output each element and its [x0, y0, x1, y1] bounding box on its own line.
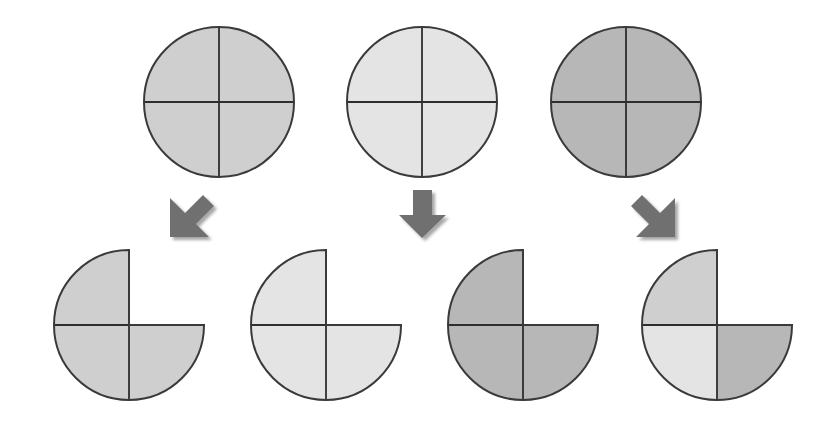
quadrant-bottom-right	[129, 325, 204, 400]
quadrant-bottom-left	[642, 325, 717, 400]
quadrant-bottom-left	[251, 325, 326, 400]
arrow-down-right-icon	[631, 195, 675, 237]
result-dark-three-quarter-circle	[448, 250, 598, 400]
arrow-down-icon	[399, 190, 446, 238]
source-medium-circle	[144, 27, 294, 177]
result-medium-three-quarter-circle	[54, 250, 204, 400]
quadrant-bottom-right	[326, 325, 401, 400]
result-mixed-three-quarter-circle	[642, 250, 792, 400]
quadrant-bottom-right	[523, 325, 598, 400]
quadrant-top-left	[251, 250, 326, 325]
result-light-three-quarter-circle	[251, 250, 401, 400]
quadrant-top-left	[448, 250, 523, 325]
quadrant-bottom-left	[448, 325, 523, 400]
source-light-circle	[347, 27, 497, 177]
quadrant-bottom-right	[717, 325, 792, 400]
quadrant-bottom-left	[54, 325, 129, 400]
quadrant-top-left	[54, 250, 129, 325]
arrow-down-left-icon	[170, 195, 214, 237]
source-dark-circle	[551, 27, 701, 177]
diagram-canvas	[0, 0, 834, 424]
quadrant-top-left	[642, 250, 717, 325]
